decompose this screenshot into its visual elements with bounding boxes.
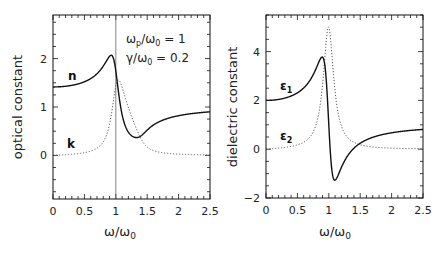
x-tick-label: 1.5 <box>138 205 156 218</box>
y-tick-label: 4 <box>253 46 260 59</box>
k-label: k <box>67 137 76 151</box>
left-x-axis-label: ω/ω0 <box>104 224 136 241</box>
x-tick-label: 0 <box>50 205 57 218</box>
y-tick-label: 1 <box>40 101 47 114</box>
x-tick-label: 0 <box>263 204 270 217</box>
k-curve <box>53 80 210 155</box>
y-tick-label: 0 <box>40 149 47 162</box>
damping-annotation: γ/ω0 = 0.2 <box>126 51 189 67</box>
right-x-axis-label: ω/ω0 <box>319 224 351 241</box>
y-tick-label: −2 <box>244 192 260 205</box>
x-tick-label: 2 <box>388 204 395 217</box>
x-tick-label: 2.5 <box>201 205 219 218</box>
figure: 00.511.522.5012 n k ωp/ω0 = 1 γ/ω0 = 0.2… <box>0 0 445 255</box>
n-label: n <box>68 69 77 83</box>
x-tick-label: 0.5 <box>76 205 94 218</box>
right-axis-ticks <box>266 15 423 198</box>
y-tick-label: 2 <box>40 53 47 66</box>
x-tick-label: 1.5 <box>351 204 369 217</box>
left-axis-tick-labels: 00.511.522.5012 <box>40 53 219 218</box>
epsilon2-label: ε2 <box>280 129 292 145</box>
right-panel-dielectric-constant: 00.511.522.5−2024 ε1 ε2 dielectric const… <box>225 15 432 241</box>
y-tick-label: 2 <box>253 94 260 107</box>
x-tick-label: 2.5 <box>414 204 432 217</box>
right-plot-frame <box>266 15 423 198</box>
y-tick-label: 0 <box>253 143 260 156</box>
right-y-axis-label: dielectric constant <box>225 47 240 167</box>
x-tick-label: 1 <box>325 204 332 217</box>
left-panel-optical-constant: 00.511.522.5012 n k ωp/ω0 = 1 γ/ω0 = 0.2… <box>10 15 219 241</box>
x-tick-label: 1 <box>112 205 119 218</box>
left-y-axis-label: optical constant <box>10 55 25 159</box>
epsilon1-label: ε1 <box>280 79 293 95</box>
x-tick-label: 2 <box>175 205 182 218</box>
plasma-frequency-annotation: ωp/ω0 = 1 <box>126 32 186 48</box>
n-curve <box>53 55 210 137</box>
x-tick-label: 0.5 <box>289 204 307 217</box>
epsilon1-curve <box>266 57 423 180</box>
